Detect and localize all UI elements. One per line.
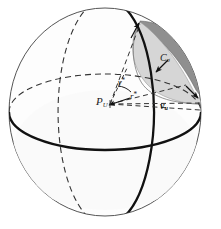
figure-container: PU γ* r* vu Cσ <box>0 0 221 229</box>
label-cap-csigma: Cσ <box>160 53 170 64</box>
label-r-star: * <box>134 91 138 99</box>
label-c-subscript: σ <box>167 56 170 63</box>
label-pu-text: P <box>96 95 103 107</box>
sphere-diagram-svg <box>0 0 221 229</box>
label-pu-subscript: U <box>103 101 108 108</box>
label-radius-rstar: r* <box>130 92 137 101</box>
label-angle-gamma: γ* <box>118 78 125 87</box>
label-c-text: C <box>160 52 167 63</box>
label-vector-vu: vu <box>160 101 168 112</box>
label-gamma-star: * <box>122 77 126 85</box>
label-v-subscript: u <box>164 104 167 111</box>
label-center-point: PU <box>96 96 108 108</box>
